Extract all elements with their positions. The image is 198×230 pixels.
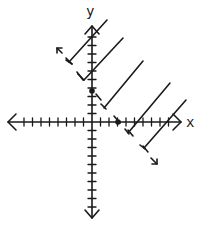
x-axis-label: x xyxy=(186,115,194,129)
shaded-region-hatching xyxy=(66,20,186,149)
coordinate-graph xyxy=(0,0,198,230)
boundary-arrow-down-right-icon xyxy=(151,158,157,164)
x-intercept-point xyxy=(115,119,121,125)
y-intercept-point xyxy=(89,88,95,94)
y-axis-label: y xyxy=(86,4,94,18)
boundary-arrow-up-left-icon xyxy=(57,48,62,53)
x-axis xyxy=(8,114,181,130)
